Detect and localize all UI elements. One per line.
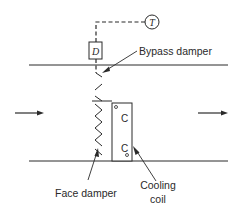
bypass-damper-leader <box>102 51 137 73</box>
damper-actuator-box: D <box>89 42 102 59</box>
cooling-coil-leader <box>133 146 156 181</box>
coil-marking-bottom: C <box>121 143 128 154</box>
cooling-coil: C C <box>112 103 132 161</box>
inlet-airflow-arrow <box>15 111 44 116</box>
cooling-coil-label-line2: coil <box>150 193 166 205</box>
outlet-airflow-arrow <box>198 111 228 116</box>
thermostat-symbol: T <box>145 15 159 29</box>
bypass-damper-label: Bypass damper <box>139 45 212 57</box>
cooling-coil-label-line1: Cooling <box>140 179 176 191</box>
face-damper-leader <box>88 148 99 180</box>
actuator-label: D <box>91 46 100 57</box>
face-damper-blades <box>95 96 102 155</box>
bypass-damper-blades <box>95 73 102 90</box>
control-signal-line <box>96 22 145 42</box>
face-bypass-damper-diagram: T D C C Bypass damper <box>0 0 241 215</box>
face-damper-label: Face damper <box>55 187 117 199</box>
coil-marking-top: C <box>121 113 128 124</box>
